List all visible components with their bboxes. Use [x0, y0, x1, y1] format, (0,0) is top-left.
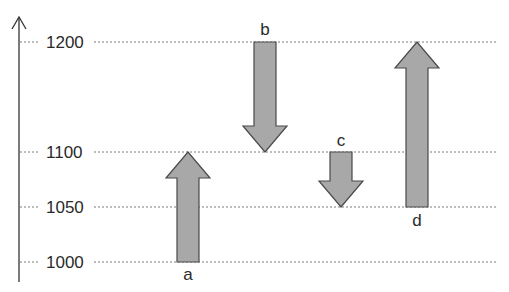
arrow-label-c: c — [337, 131, 346, 150]
tick-label-1200: 1200 — [46, 33, 84, 52]
tick-label-1000: 1000 — [46, 253, 84, 272]
tick-label-1100: 1100 — [46, 143, 83, 162]
arrow-chart: 1200 1100 1050 1000 a b c d — [0, 0, 509, 292]
tick-labels: 1200 1100 1050 1000 — [46, 33, 84, 272]
arrow-label-a: a — [183, 265, 193, 284]
arrow-d-up-icon — [395, 42, 439, 207]
arrow-c-down-icon — [319, 152, 363, 207]
arrow-label-b: b — [260, 20, 269, 39]
arrow-b-down-icon — [243, 42, 287, 152]
arrow-label-d: d — [412, 211, 421, 230]
tick-label-1050: 1050 — [46, 198, 84, 217]
y-axis — [12, 17, 26, 282]
